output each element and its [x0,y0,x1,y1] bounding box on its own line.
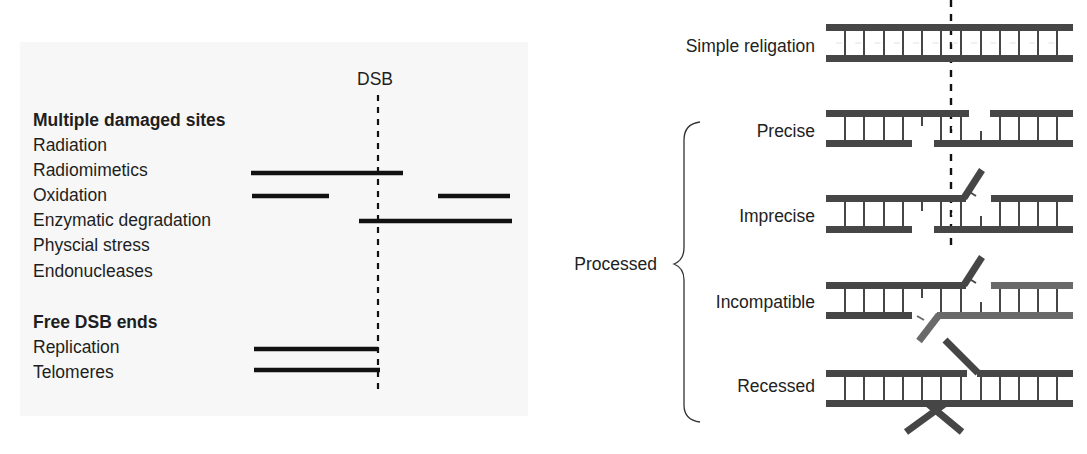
dna-imprecise [826,170,1073,233]
dna-incompatible [826,257,1073,341]
damage-bars [251,173,512,370]
dna-recessed [826,340,1073,432]
processed-brace [674,122,700,422]
dsb-diagram-graphics [0,0,1087,454]
dna-simple-religation [826,24,1073,62]
dna-precise [826,110,1073,147]
